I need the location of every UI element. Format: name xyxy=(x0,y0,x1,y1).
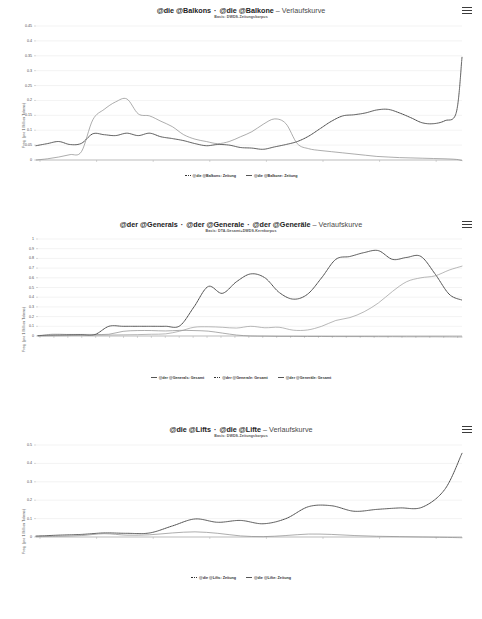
y-tick-label: 0.4 xyxy=(12,39,32,43)
chart1-title-dash: – xyxy=(276,6,280,15)
y-tick-label: 0.15 xyxy=(12,113,32,117)
chart3-title: @die @Lifts · @die @Lifte – Verlaufskurv… xyxy=(0,425,482,434)
legend-swatch-icon xyxy=(246,577,252,578)
hamburger-menu-icon[interactable] xyxy=(462,424,473,435)
y-tick-label: 0.7 xyxy=(14,266,34,270)
chart1-x-ticks: 19461956196619761986199620062016 xyxy=(0,162,482,192)
chart2-header: @der @Generals · @der @Generale · @der @… xyxy=(0,214,482,234)
y-tick-label: 0.5 xyxy=(14,286,34,290)
menu-line-2 xyxy=(462,429,472,430)
y-tick-label: 0.05 xyxy=(12,143,32,147)
legend-item[interactable]: @der @Generale: Gesamt xyxy=(214,376,268,380)
chart3-title-suffix: Verlaufskurve xyxy=(269,425,313,434)
menu-line-1 xyxy=(462,221,472,222)
chart-block-lifts: @die @Lifts · @die @Lifte – Verlaufskurv… xyxy=(0,419,482,619)
y-tick-label: 0.2 xyxy=(12,498,32,502)
y-tick-label: 0.6 xyxy=(14,276,34,280)
chart1-header: @die @Balkons · @die @Balkone – Verlaufs… xyxy=(0,0,482,20)
chart1-title-term1: @die @Balkons xyxy=(157,6,211,15)
menu-line-2 xyxy=(462,10,472,11)
chart2-x-ticks: 1700171517201730174017501760177517851795… xyxy=(0,338,482,368)
y-tick-label: 0.45 xyxy=(12,24,32,28)
legend-swatch-icon xyxy=(278,377,284,378)
chart3-header: @die @Lifts · @die @Lifte – Verlaufskurv… xyxy=(0,419,482,439)
chart3-plot-area: Freq. (pro 1 Million Tokens) 00.10.20.30… xyxy=(0,439,482,574)
hamburger-menu-icon[interactable] xyxy=(462,5,473,16)
chart2-title-separator-1: · xyxy=(180,220,184,229)
y-tick-label: 0.3 xyxy=(14,305,34,309)
y-tick-label: 0.4 xyxy=(12,461,32,465)
menu-line-3 xyxy=(462,432,472,433)
legend-item[interactable]: @der @Generals: Gesamt xyxy=(151,376,205,380)
legend-item[interactable]: @die @Lifts: Zeitung xyxy=(191,576,236,580)
menu-line-3 xyxy=(462,13,472,14)
y-tick-label: 0.3 xyxy=(12,480,32,484)
legend-swatch-icon xyxy=(185,175,191,176)
y-tick-label: 0.1 xyxy=(12,128,32,132)
legend-swatch-icon xyxy=(191,577,197,578)
y-tick-label: 0.1 xyxy=(14,324,34,328)
legend-item[interactable]: @die @Lifte: Zeitung xyxy=(246,576,291,580)
y-tick-label: 1 xyxy=(14,237,34,241)
menu-line-1 xyxy=(462,426,472,427)
y-tick-label: 0.1 xyxy=(12,517,32,521)
chart2-plot-area: Freq. (pro 1 Million Tokens) 00.10.20.30… xyxy=(0,234,482,374)
legend-label: @der @Generale: Gesamt xyxy=(222,376,268,380)
y-tick-label: 0.2 xyxy=(12,98,32,102)
chart1-title-suffix: Verlaufskurve xyxy=(282,6,326,15)
y-tick-label: 0.4 xyxy=(14,295,34,299)
hamburger-menu-icon[interactable] xyxy=(462,219,473,230)
chart3-title-dash: – xyxy=(263,425,267,434)
y-tick-label: 0.35 xyxy=(12,54,32,58)
chart-block-generals: @der @Generals · @der @Generale · @der @… xyxy=(0,214,482,419)
chart2-title-term2: @der @Generale xyxy=(186,220,244,229)
legend-swatch-icon xyxy=(151,377,157,378)
chart1-title: @die @Balkons · @die @Balkone – Verlaufs… xyxy=(0,6,482,15)
legend-label: @die @Lifts: Zeitung xyxy=(199,576,236,580)
chart1-svg xyxy=(0,20,482,172)
chart3-legend: @die @Lifts: Zeitung@die @Lifte: Zeitung xyxy=(0,576,482,580)
charts-page: @die @Balkons · @die @Balkone – Verlaufs… xyxy=(0,0,482,619)
legend-label: @die @Lifte: Zeitung xyxy=(254,576,291,580)
legend-label: @der @Generals: Gesamt xyxy=(159,376,205,380)
y-tick-label: 0.3 xyxy=(12,69,32,73)
chart1-plot-area: Freq. (pro 1 Million Tokens) 00.050.10.1… xyxy=(0,20,482,172)
chart2-title-dash: – xyxy=(313,220,317,229)
chart3-title-term1: @die @Lifts xyxy=(169,425,211,434)
y-tick-label: 0.25 xyxy=(12,84,32,88)
chart3-title-term2: @die @Lifte xyxy=(219,425,261,434)
legend-swatch-icon xyxy=(246,175,252,176)
chart2-title: @der @Generals · @der @Generale · @der @… xyxy=(0,220,482,229)
menu-line-3 xyxy=(462,227,472,228)
y-tick-label: 0.8 xyxy=(14,256,34,260)
chart1-title-term2: @die @Balkone xyxy=(219,6,273,15)
chart3-x-ticks: 19461956196619761986199620062016 xyxy=(0,539,482,569)
chart2-legend: @der @Generals: Gesamt@der @Generale: Ge… xyxy=(0,376,482,380)
chart-block-balkons: @die @Balkons · @die @Balkone – Verlaufs… xyxy=(0,0,482,214)
chart2-title-separator-2: · xyxy=(246,220,250,229)
y-tick-label: 0.9 xyxy=(14,247,34,251)
legend-label: @der @Generäle: Gesamt xyxy=(286,376,332,380)
chart3-title-separator: · xyxy=(213,425,217,434)
chart2-title-suffix: Verlaufskurve xyxy=(319,220,363,229)
menu-line-1 xyxy=(462,7,472,8)
menu-line-2 xyxy=(462,224,472,225)
y-tick-label: 0.2 xyxy=(14,315,34,319)
legend-item[interactable]: @der @Generäle: Gesamt xyxy=(278,376,332,380)
legend-swatch-icon xyxy=(214,377,220,378)
chart2-title-term3: @der @Generäle xyxy=(253,220,311,229)
chart1-title-separator: · xyxy=(213,6,217,15)
y-tick-label: 0.5 xyxy=(12,443,32,447)
chart2-title-term1: @der @Generals xyxy=(120,220,178,229)
